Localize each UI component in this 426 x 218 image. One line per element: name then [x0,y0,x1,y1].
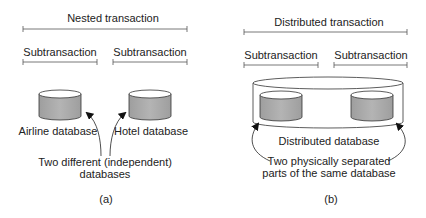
subtransaction-label-a2: Subtransaction [113,46,186,58]
airline-database-label: Airline database [19,125,98,137]
annotation-a-line2: databases [80,168,131,180]
nested-transaction-span [23,26,187,32]
hotel-database-label: Hotel database [114,125,188,137]
database-part-1-cylinder-icon [260,91,302,121]
hotel-database-cylinder-icon [129,90,171,120]
database-part-2-cylinder-icon [351,91,393,121]
distributed-database-label: Distributed database [279,135,380,147]
subtransaction-span-b2 [334,62,407,68]
annotation-a-line1: Two different (independent) [38,156,172,168]
panel-a-nested-transaction: Nested transaction Subtransaction Subtra… [19,12,188,205]
nested-transaction-title: Nested transaction [67,12,159,24]
airline-database-cylinder-icon [39,90,81,120]
subtransaction-label-b1: Subtransaction [244,49,317,61]
annotation-b-line2: parts of the same database [262,167,395,179]
subtransaction-label-b2: Subtransaction [334,49,407,61]
panel-b-distributed-transaction: Distributed transaction Subtransaction S… [244,16,408,205]
annotation-b-line1: Two physically separated [268,155,391,167]
subtransaction-span-a2 [113,59,187,65]
subtransaction-span-a1 [23,59,97,65]
caption-b: (b) [324,193,337,205]
transaction-diagram: Nested transaction Subtransaction Subtra… [0,0,426,218]
subtransaction-span-b1 [244,62,318,68]
caption-a: (a) [99,193,112,205]
distributed-transaction-title: Distributed transaction [274,16,383,28]
subtransaction-label-a1: Subtransaction [23,46,96,58]
distributed-transaction-span [244,29,407,35]
